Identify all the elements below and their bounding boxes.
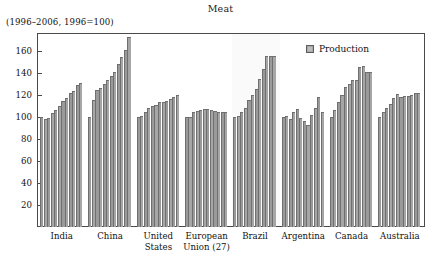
legend-label-production: Production	[319, 44, 369, 54]
bar-group	[88, 33, 132, 227]
y-tick-label: 40	[2, 178, 32, 188]
bar	[224, 112, 227, 227]
bar	[272, 56, 275, 227]
category-label-line: Australia	[380, 231, 419, 241]
bar	[176, 95, 179, 227]
bar-group	[137, 33, 181, 227]
bar-group	[282, 33, 326, 227]
y-tick-label: 20	[2, 200, 32, 210]
meat-production-index-chart: Meat (1996–2006, 1996=100) 2040608010012…	[0, 0, 441, 271]
y-tick-label: 60	[2, 156, 32, 166]
bar	[79, 83, 82, 227]
bar	[417, 93, 420, 227]
category-label-line: Canada	[335, 231, 368, 241]
bar	[369, 72, 372, 227]
y-tick-label: 120	[2, 90, 32, 100]
category-label-line: India	[51, 231, 73, 241]
bar	[127, 37, 130, 227]
bar-group	[330, 33, 374, 227]
category-label: Australia	[370, 231, 430, 242]
bar-group	[233, 33, 277, 227]
category-label-line: European	[185, 231, 227, 241]
y-tick-label: 100	[2, 112, 32, 122]
category-label-line: China	[97, 231, 123, 241]
category-label-line: Brazil	[242, 231, 268, 241]
bar-group	[40, 33, 84, 227]
category-label-line: Argentina	[282, 231, 325, 241]
bar-group	[185, 33, 229, 227]
legend: Production	[306, 44, 369, 54]
y-tick-label: 80	[2, 134, 32, 144]
bar-group	[378, 33, 422, 227]
legend-swatch-production	[306, 45, 314, 53]
chart-title: Meat	[0, 3, 441, 14]
category-label-line: United	[144, 231, 174, 241]
bar	[321, 112, 324, 227]
chart-subtitle: (1996–2006, 1996=100)	[6, 17, 114, 27]
y-tick-label: 160	[2, 46, 32, 56]
category-label-line: States	[145, 242, 172, 252]
y-tick-label: 140	[2, 68, 32, 78]
category-label-line: Union (27)	[183, 242, 230, 252]
